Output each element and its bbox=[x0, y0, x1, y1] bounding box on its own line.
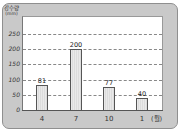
y-tick-0: 0 bbox=[2, 107, 20, 113]
y-axis-title-unit: (mm) bbox=[4, 11, 19, 17]
gridline-250 bbox=[23, 34, 162, 35]
x-axis-unit: (월) bbox=[151, 115, 162, 123]
bar-month-10 bbox=[103, 87, 115, 110]
gridline-150 bbox=[23, 64, 162, 65]
bar-month-4 bbox=[36, 85, 48, 110]
y-tick-50: 50 bbox=[2, 92, 20, 98]
x-tick-1: 1 bbox=[134, 115, 150, 123]
value-label-month-7: 200 bbox=[66, 42, 86, 49]
x-tick-7: 7 bbox=[68, 115, 84, 123]
bar-month-1 bbox=[136, 98, 148, 110]
y-axis-title: 강수량 (mm) bbox=[4, 5, 19, 17]
value-label-month-4: 81 bbox=[32, 78, 52, 85]
gridline-200 bbox=[23, 49, 162, 50]
y-tick-150: 150 bbox=[2, 61, 20, 67]
value-label-month-1: 40 bbox=[132, 91, 152, 98]
y-tick-100: 100 bbox=[2, 77, 20, 83]
x-tick-4: 4 bbox=[34, 115, 50, 123]
y-tick-200: 200 bbox=[2, 46, 20, 52]
bar-month-7 bbox=[70, 49, 82, 110]
x-axis-line bbox=[22, 110, 163, 111]
x-tick-10: 10 bbox=[101, 115, 117, 123]
value-label-month-10: 77 bbox=[99, 80, 119, 87]
y-tick-250: 250 bbox=[2, 31, 20, 37]
